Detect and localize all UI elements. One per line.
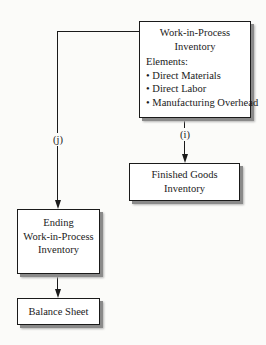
wip-title-line1: Work-in-Process bbox=[140, 26, 250, 40]
balance-sheet-label: Balance Sheet bbox=[18, 305, 99, 319]
finished-goods-line2: Inventory bbox=[130, 182, 239, 196]
wip-elements-heading: Elements: bbox=[146, 55, 250, 69]
work-in-process-inventory-box: Work-in-Process Inventory Elements: • Di… bbox=[139, 21, 251, 118]
wip-element-manufacturing-overhead: • Manufacturing Overhead bbox=[146, 96, 250, 110]
arrowhead-to-ending-wip bbox=[55, 200, 61, 209]
arrowhead-to-finished-goods bbox=[182, 154, 188, 163]
edge-label-i: (i) bbox=[178, 128, 192, 141]
wip-title-line2: Inventory bbox=[140, 40, 250, 54]
balance-sheet-box: Balance Sheet bbox=[17, 298, 100, 325]
wip-elements-list: Elements: • Direct Materials • Direct La… bbox=[140, 55, 250, 109]
ending-wip-line1: Ending bbox=[18, 216, 99, 230]
connector-wip-to-ending-vertical bbox=[57, 31, 58, 201]
finished-goods-inventory-box: Finished Goods Inventory bbox=[129, 163, 240, 201]
finished-goods-line1: Finished Goods bbox=[130, 168, 239, 182]
ending-work-in-process-inventory-box: Ending Work-in-Process Inventory bbox=[17, 209, 100, 274]
edge-label-j: (j) bbox=[51, 133, 65, 146]
wip-element-direct-materials: • Direct Materials bbox=[146, 69, 250, 83]
ending-wip-line3: Inventory bbox=[18, 243, 99, 257]
connector-ending-to-balance-sheet bbox=[57, 273, 58, 290]
connector-wip-to-ending-horizontal bbox=[57, 31, 139, 32]
arrowhead-to-balance-sheet bbox=[55, 289, 61, 298]
wip-element-direct-labor: • Direct Labor bbox=[146, 82, 250, 96]
ending-wip-line2: Work-in-Process bbox=[18, 230, 99, 244]
